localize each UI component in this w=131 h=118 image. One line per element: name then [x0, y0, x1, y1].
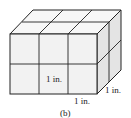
- figure-caption: (b): [60, 108, 71, 118]
- bottom-edge-label: 1 in.: [74, 96, 90, 106]
- depth-edge-label: 1 in.: [105, 85, 121, 95]
- front-cube-label: 1 in.: [46, 74, 62, 84]
- cube-prism-diagram: 1 in. 1 in. 1 in. (b): [0, 0, 131, 118]
